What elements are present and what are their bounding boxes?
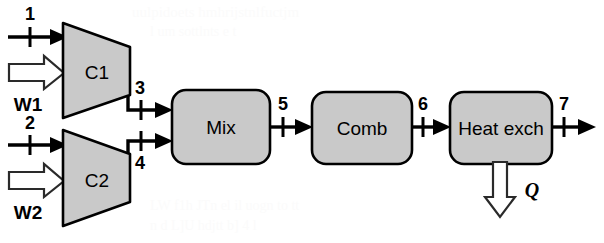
stream-7-label: 7 bbox=[559, 94, 569, 114]
stream-4-arrowhead bbox=[155, 133, 173, 149]
q-label: Q bbox=[525, 179, 539, 201]
stream-1-group: 1 bbox=[8, 4, 68, 47]
stream-4-group: 4 bbox=[128, 131, 173, 173]
stream-7-arrowhead bbox=[578, 119, 596, 135]
w2-label: W2 bbox=[14, 202, 43, 223]
unit-comb-group: Comb bbox=[312, 92, 412, 164]
unit-c2-label: C2 bbox=[85, 170, 109, 191]
stream-2-label: 2 bbox=[25, 113, 35, 133]
unit-mix-group: Mix bbox=[172, 90, 270, 164]
stream-5-arrowhead bbox=[295, 119, 313, 135]
unit-c1-group: C1 bbox=[63, 23, 130, 118]
unit-heat-exch-label: Heat exch bbox=[458, 118, 544, 139]
stream-3-label: 3 bbox=[135, 78, 145, 98]
stream-6-group: 6 bbox=[412, 94, 451, 137]
unit-c1-label: C1 bbox=[85, 62, 109, 83]
stream-4-label: 4 bbox=[135, 153, 145, 173]
stream-5-group: 5 bbox=[270, 94, 313, 137]
work-input-w1-group: W1 bbox=[9, 56, 64, 115]
heat-output-q-group: Q bbox=[485, 162, 539, 217]
unit-comb-label: Comb bbox=[337, 118, 388, 139]
unit-heat-exch-group: Heat exch bbox=[450, 92, 552, 164]
unit-c2-group: C2 bbox=[63, 130, 130, 226]
stream-3-arrowhead bbox=[155, 102, 173, 118]
stream-6-label: 6 bbox=[418, 94, 428, 114]
stream-6-arrowhead bbox=[433, 119, 451, 135]
stream-3-group: 3 bbox=[128, 78, 173, 120]
flow-diagram-canvas: 1 W1 C1 3 2 W2 bbox=[0, 0, 604, 243]
process-flow-diagram: uulpidoets hmhrijstnlfuctjm l um sottlnt… bbox=[0, 0, 604, 243]
w2-hollow-arrow-icon bbox=[9, 164, 64, 197]
w1-hollow-arrow-icon bbox=[9, 56, 64, 89]
q-hollow-arrow-icon bbox=[485, 162, 515, 217]
unit-mix-label: Mix bbox=[206, 117, 236, 138]
stream-7-group: 7 bbox=[552, 94, 596, 137]
work-input-w2-group: W2 bbox=[9, 164, 64, 223]
stream-5-label: 5 bbox=[278, 94, 288, 114]
stream-1-label: 1 bbox=[25, 4, 35, 24]
w1-label: W1 bbox=[14, 94, 43, 115]
stream-2-group: 2 bbox=[8, 113, 68, 155]
